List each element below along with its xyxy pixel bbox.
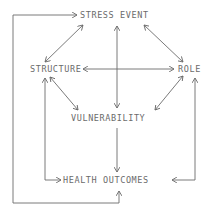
arrow-stress-structure — [45, 25, 83, 62]
node-structure: STRUCTURE — [30, 65, 81, 74]
node-health-outcomes: HEALTH OUTCOMES — [63, 176, 149, 185]
stress-model-diagram: STRESS EVENT STRUCTURE ROLE VULNERABILIT… — [0, 0, 205, 214]
arrow-role-vulnerability — [155, 76, 183, 110]
node-stress-event: STRESS EVENT — [80, 11, 149, 20]
arrow-stress-role — [144, 25, 183, 62]
arrow-structure-health — [45, 78, 61, 180]
node-vulnerability: VULNERABILITY — [71, 114, 145, 123]
node-role: ROLE — [178, 65, 201, 74]
arrow-structure-vulnerability — [50, 77, 78, 110]
arrow-role-health — [172, 78, 195, 180]
